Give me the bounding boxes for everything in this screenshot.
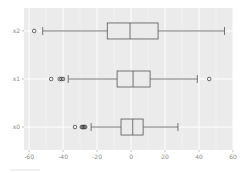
y-category-label: x0 [13,123,21,130]
x-tick-label: 20 [161,153,169,160]
iqr-box [121,119,143,135]
x-tick-label: -60 [24,153,34,160]
x-tick-label: -20 [92,153,102,160]
x-tick-label: 40 [195,153,203,160]
y-category-label: x2 [13,27,21,34]
iqr-box [107,23,158,39]
x-tick-label: 60 [229,153,237,160]
y-axis: x2x1x0 [13,27,24,130]
x-tick-label: -40 [58,153,68,160]
boxplot-chart: -60-40-200204060 x2x1x0 [0,0,246,173]
iqr-box [117,71,150,87]
y-category-label: x1 [13,75,21,82]
x-axis: -60-40-200204060 [24,150,237,160]
x-tick-label: 0 [129,153,133,160]
